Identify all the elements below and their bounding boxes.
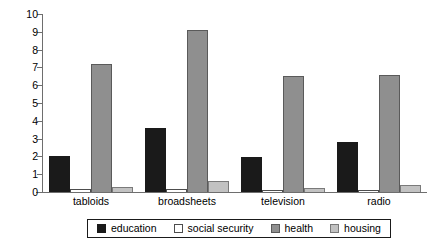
legend-item-housing[interactable]: housing bbox=[330, 223, 381, 234]
legend-label: social security bbox=[188, 223, 254, 234]
chart-legend: educationsocial securityhealthhousing bbox=[87, 219, 391, 238]
y-axis-tick-label: 7 bbox=[32, 62, 38, 73]
y-axis-tick-label: 9 bbox=[32, 27, 38, 38]
x-axis-category-label: radio bbox=[367, 196, 390, 207]
bar-chart: 012345678910 tabloidsbroadsheetstelevisi… bbox=[0, 0, 445, 252]
legend-swatch-icon bbox=[174, 224, 183, 233]
bar-social-security-tabloids[interactable] bbox=[70, 189, 91, 192]
y-axis-tick-label: 10 bbox=[26, 9, 38, 20]
y-axis-tick-label: 3 bbox=[32, 133, 38, 144]
legend-label: health bbox=[285, 223, 314, 234]
bar-social-security-radio[interactable] bbox=[358, 190, 379, 192]
y-axis-tick-label: 4 bbox=[32, 116, 38, 127]
bar-health-radio[interactable] bbox=[379, 75, 400, 192]
bar-group-bars bbox=[337, 14, 421, 192]
legend-item-social-security[interactable]: social security bbox=[174, 223, 254, 234]
legend-swatch-icon bbox=[271, 224, 280, 233]
plot-area: 012345678910 tabloidsbroadsheetstelevisi… bbox=[42, 14, 427, 192]
bar-group: broadsheets bbox=[139, 14, 235, 192]
y-axis-tick-label: 0 bbox=[32, 187, 38, 198]
legend-swatch-icon bbox=[330, 224, 339, 233]
bar-social-security-broadsheets[interactable] bbox=[166, 189, 187, 192]
legend-item-education[interactable]: education bbox=[97, 223, 157, 234]
bar-group: television bbox=[235, 14, 331, 192]
bar-groups: tabloidsbroadsheetstelevisionradio bbox=[43, 14, 427, 192]
y-axis-tick-label: 8 bbox=[32, 44, 38, 55]
bar-health-broadsheets[interactable] bbox=[187, 30, 208, 192]
y-axis-tick-label: 1 bbox=[32, 169, 38, 180]
legend-label: education bbox=[111, 223, 157, 234]
y-axis-tick-label: 2 bbox=[32, 151, 38, 162]
bar-education-broadsheets[interactable] bbox=[145, 128, 166, 192]
bar-group-bars bbox=[145, 14, 229, 192]
bar-education-tabloids[interactable] bbox=[49, 156, 70, 192]
x-axis-baseline bbox=[36, 192, 427, 193]
x-axis-category-label: tabloids bbox=[73, 196, 109, 207]
legend-item-health[interactable]: health bbox=[271, 223, 314, 234]
legend-swatch-icon bbox=[97, 224, 106, 233]
bar-health-television[interactable] bbox=[283, 76, 304, 192]
bar-group-bars bbox=[49, 14, 133, 192]
bar-education-radio[interactable] bbox=[337, 142, 358, 192]
bar-health-tabloids[interactable] bbox=[91, 64, 112, 192]
bar-group-bars bbox=[241, 14, 325, 192]
bar-housing-tabloids[interactable] bbox=[112, 187, 133, 192]
bar-housing-radio[interactable] bbox=[400, 185, 421, 192]
legend-label: housing bbox=[344, 223, 381, 234]
bar-group: tabloids bbox=[43, 14, 139, 192]
y-axis-tick-label: 6 bbox=[32, 80, 38, 91]
y-axis-tick-label: 5 bbox=[32, 98, 38, 109]
bar-social-security-television[interactable] bbox=[262, 190, 283, 192]
x-axis-category-label: broadsheets bbox=[158, 196, 216, 207]
x-axis-category-label: television bbox=[261, 196, 305, 207]
bar-housing-television[interactable] bbox=[304, 188, 325, 192]
bar-housing-broadsheets[interactable] bbox=[208, 181, 229, 192]
bar-education-television[interactable] bbox=[241, 157, 262, 192]
bar-group: radio bbox=[331, 14, 427, 192]
